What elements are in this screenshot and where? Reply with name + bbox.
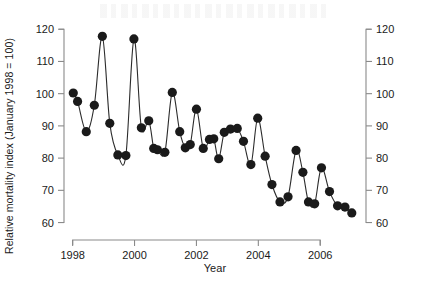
y-axis-right-tick-label: 100 xyxy=(376,88,394,100)
data-point-marker xyxy=(246,160,255,169)
y-axis-tick-label: 60 xyxy=(42,217,54,229)
y-axis-tick-label: 80 xyxy=(42,152,54,164)
data-point-marker xyxy=(298,168,307,177)
x-axis-title-label: Year xyxy=(204,262,227,274)
data-point-marker xyxy=(137,123,146,132)
data-point-marker xyxy=(214,154,223,163)
y-axis-title-label: Relative mortality index (January 1998 =… xyxy=(3,38,15,254)
y-axis-right-tick-label: 70 xyxy=(376,184,388,196)
data-point-marker xyxy=(310,199,319,208)
x-axis-tick-label: 2002 xyxy=(184,249,208,261)
data-point-marker xyxy=(347,208,356,217)
x-axis-tick-label: 1998 xyxy=(60,249,84,261)
y-axis-title: Relative mortality index (January 1998 =… xyxy=(0,0,18,292)
data-point-marker xyxy=(168,88,177,97)
y-axis-right-tick-label: 60 xyxy=(376,217,388,229)
data-point-marker xyxy=(160,148,169,157)
data-point-marker xyxy=(261,152,270,161)
y-axis-tick-label: 70 xyxy=(42,184,54,196)
y-axis-tick-label: 110 xyxy=(36,55,54,67)
data-point-marker xyxy=(129,34,138,43)
data-point-marker xyxy=(69,88,78,97)
x-axis-title: Year xyxy=(0,262,430,274)
y-axis-tick-label: 100 xyxy=(36,88,54,100)
data-point-marker xyxy=(291,146,300,155)
y-axis-right-tick-label: 120 xyxy=(376,23,394,35)
x-axis-tick-label: 2004 xyxy=(246,249,270,261)
data-point-marker xyxy=(121,151,130,160)
data-point-marker xyxy=(175,127,184,136)
data-point-marker xyxy=(82,127,91,136)
chart-figure: 6070809010011012060708090100110120199820… xyxy=(0,0,430,292)
y-axis-right-tick-label: 90 xyxy=(376,120,388,132)
data-point-marker xyxy=(186,140,195,149)
data-point-marker xyxy=(253,114,262,123)
data-point-marker xyxy=(317,163,326,172)
series-line xyxy=(73,36,352,213)
data-point-marker xyxy=(90,101,99,110)
data-point-marker xyxy=(105,119,114,128)
data-point-marker xyxy=(98,32,107,41)
data-point-marker xyxy=(267,180,276,189)
data-point-marker xyxy=(113,150,122,159)
data-point-marker xyxy=(275,197,284,206)
y-axis-right-tick-label: 110 xyxy=(376,55,394,67)
data-point-marker xyxy=(233,124,242,133)
y-axis-tick-label: 90 xyxy=(42,120,54,132)
data-point-marker xyxy=(239,137,248,146)
data-point-marker xyxy=(144,116,153,125)
data-point-marker xyxy=(283,192,292,201)
x-axis-tick-label: 2006 xyxy=(308,249,332,261)
data-point-marker xyxy=(325,187,334,196)
y-axis-tick-label: 120 xyxy=(36,23,54,35)
data-point-marker xyxy=(209,134,218,143)
data-point-marker xyxy=(192,105,201,114)
y-axis-right-tick-label: 80 xyxy=(376,152,388,164)
x-axis-tick-label: 2000 xyxy=(122,249,146,261)
mortality-index-line-chart: 6070809010011012060708090100110120199820… xyxy=(0,0,430,292)
data-point-marker xyxy=(199,144,208,153)
data-point-marker xyxy=(73,97,82,106)
